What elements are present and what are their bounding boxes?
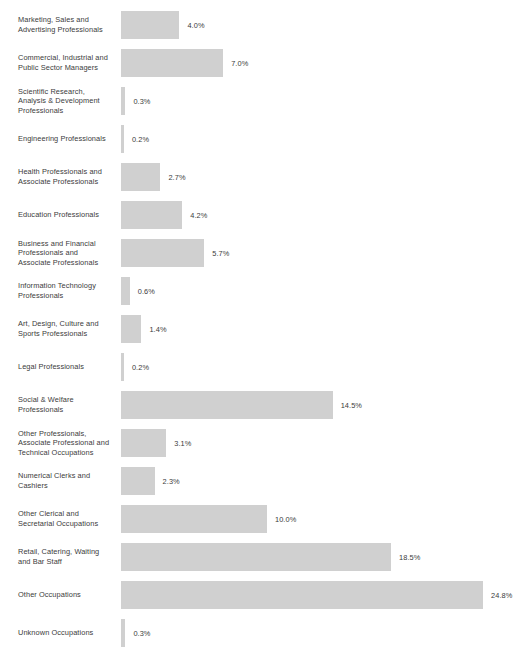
bar	[121, 315, 141, 343]
bar-category-label: Other Professionals, Associate Professio…	[18, 429, 121, 458]
bar-track: 18.5%	[121, 538, 520, 576]
bar-track: 0.3%	[121, 82, 520, 120]
bar	[121, 125, 124, 153]
bar	[121, 239, 204, 267]
bar-track: 14.5%	[121, 386, 520, 424]
bar-category-label: Numerical Clerks and Cashiers	[18, 471, 121, 490]
bar-category-label: Retail, Catering, Waiting and Bar Staff	[18, 547, 121, 566]
bar-track: 4.2%	[121, 196, 520, 234]
bar	[121, 11, 179, 39]
bar	[121, 467, 155, 495]
bar-row: Business and Financial Professionals and…	[0, 234, 520, 272]
bar-row: Social & Welfare Professionals14.5%	[0, 386, 520, 424]
bar	[121, 391, 333, 419]
bar-row: Art, Design, Culture and Sports Professi…	[0, 310, 520, 348]
bar-category-label: Other Occupations	[18, 590, 121, 600]
bar-value-label: 2.3%	[163, 477, 180, 486]
bar-track: 1.4%	[121, 310, 520, 348]
bar	[121, 201, 182, 229]
bar-category-label: Business and Financial Professionals and…	[18, 239, 121, 268]
bar-category-label: Unknown Occupations	[18, 628, 121, 638]
bar-value-label: 5.7%	[212, 249, 229, 258]
bar-track: 2.3%	[121, 462, 520, 500]
bar	[121, 581, 483, 609]
bar-value-label: 0.3%	[133, 97, 150, 106]
bar-value-label: 0.3%	[133, 629, 150, 638]
bar	[121, 619, 125, 647]
bar	[121, 277, 130, 305]
bar-row: Unknown Occupations0.3%	[0, 614, 520, 652]
bar-category-label: Other Clerical and Secretarial Occupatio…	[18, 509, 121, 528]
bar-category-label: Scientific Research, Analysis & Developm…	[18, 87, 121, 116]
bar-category-label: Information Technology Professionals	[18, 281, 121, 300]
bar-category-label: Art, Design, Culture and Sports Professi…	[18, 319, 121, 338]
bar	[121, 163, 160, 191]
bar-track: 0.6%	[121, 272, 520, 310]
bar-row: Marketing, Sales and Advertising Profess…	[0, 6, 520, 44]
bar-value-label: 24.8%	[491, 591, 512, 600]
bar	[121, 543, 391, 571]
bar	[121, 87, 125, 115]
bar-track: 0.2%	[121, 120, 520, 158]
bar-row: Legal Professionals0.2%	[0, 348, 520, 386]
bar-row: Information Technology Professionals0.6%	[0, 272, 520, 310]
bar-row: Education Professionals4.2%	[0, 196, 520, 234]
bar-category-label: Education Professionals	[18, 210, 121, 220]
bar	[121, 49, 223, 77]
bar-value-label: 0.2%	[132, 363, 149, 372]
bar-value-label: 4.0%	[187, 21, 204, 30]
bar-category-label: Social & Welfare Professionals	[18, 395, 121, 414]
bar-value-label: 1.4%	[149, 325, 166, 334]
bar-track: 7.0%	[121, 44, 520, 82]
bar-row: Other Professionals, Associate Professio…	[0, 424, 520, 462]
bar-value-label: 18.5%	[399, 553, 420, 562]
bar-row: Engineering Professionals0.2%	[0, 120, 520, 158]
bar-value-label: 3.1%	[174, 439, 191, 448]
bar-track: 2.7%	[121, 158, 520, 196]
bar-category-label: Health Professionals and Associate Profe…	[18, 167, 121, 186]
bar-category-label: Marketing, Sales and Advertising Profess…	[18, 15, 121, 34]
bar-row: Health Professionals and Associate Profe…	[0, 158, 520, 196]
bar-track: 0.2%	[121, 348, 520, 386]
bar-value-label: 14.5%	[341, 401, 362, 410]
bar-track: 0.3%	[121, 614, 520, 652]
bar	[121, 505, 267, 533]
bar-track: 4.0%	[121, 6, 520, 44]
bar-track: 5.7%	[121, 234, 520, 272]
horizontal-bar-chart: Marketing, Sales and Advertising Profess…	[0, 0, 520, 670]
bar-track: 10.0%	[121, 500, 520, 538]
bar-track: 24.8%	[121, 576, 520, 614]
bar-value-label: 4.2%	[190, 211, 207, 220]
bar-value-label: 0.2%	[132, 135, 149, 144]
bar-value-label: 7.0%	[231, 59, 248, 68]
bar-category-label: Legal Professionals	[18, 362, 121, 372]
bar-value-label: 10.0%	[275, 515, 296, 524]
bar-row: Scientific Research, Analysis & Developm…	[0, 82, 520, 120]
bar-row: Numerical Clerks and Cashiers2.3%	[0, 462, 520, 500]
bar-row: Other Occupations24.8%	[0, 576, 520, 614]
bar-row: Commercial, Industrial and Public Sector…	[0, 44, 520, 82]
bar-category-label: Engineering Professionals	[18, 134, 121, 144]
bar-row: Other Clerical and Secretarial Occupatio…	[0, 500, 520, 538]
bar	[121, 429, 166, 457]
bar-track: 3.1%	[121, 424, 520, 462]
bar	[121, 353, 124, 381]
bar-value-label: 0.6%	[138, 287, 155, 296]
bar-category-label: Commercial, Industrial and Public Sector…	[18, 53, 121, 72]
bar-row: Retail, Catering, Waiting and Bar Staff1…	[0, 538, 520, 576]
bar-value-label: 2.7%	[168, 173, 185, 182]
